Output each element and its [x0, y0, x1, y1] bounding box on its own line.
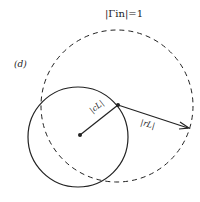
panel-label: (d) [14, 59, 27, 69]
stability-circle [28, 87, 128, 187]
origin-dot [78, 133, 82, 137]
title-label: |Γin|=1 [105, 8, 143, 19]
